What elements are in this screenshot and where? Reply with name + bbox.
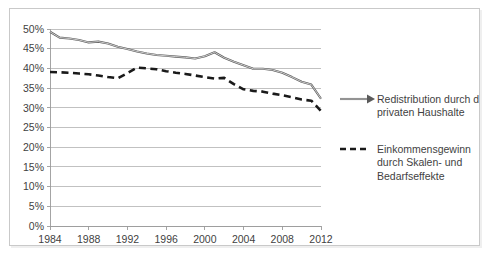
chart-figure: 50%45%40%35%30%25%20%15%10%5%0%198419881… (0, 0, 494, 261)
y-axis-tick-label: 20% (23, 141, 44, 153)
y-axis-tick-label: 5% (29, 200, 44, 212)
x-axis-tick-label: 1996 (154, 233, 178, 245)
legend-label-einkommensgewinn-line1: Einkommensgewinn (377, 143, 471, 155)
y-axis-tick-label: 45% (23, 42, 44, 54)
legend-label-redistribution-line2: privaten Haushalte (377, 106, 465, 118)
y-axis-tick-label: 35% (23, 82, 44, 94)
legend-label-einkommensgewinn-line3: Bedarfseffekte (377, 170, 445, 182)
y-axis-tick-label: 0% (29, 220, 44, 232)
y-axis-tick-label: 40% (23, 62, 44, 74)
y-axis-tick-label: 10% (23, 180, 44, 192)
x-axis-tick-label: 1984 (38, 233, 62, 245)
x-axis-tick-label: 2004 (232, 233, 256, 245)
series-line-redistribution (50, 32, 321, 99)
legend-label-einkommensgewinn-line2: durch Skalen- und (377, 156, 462, 168)
y-axis-tick-label: 50% (23, 23, 44, 35)
legend-arrow-icon (367, 95, 375, 104)
y-axis-tick-label: 30% (23, 102, 44, 114)
series-line-einkommensgewinn (50, 68, 321, 111)
x-axis-tick-label: 2008 (271, 233, 295, 245)
y-axis-tick-label: 15% (23, 161, 44, 173)
x-axis-tick-label: 2012 (309, 233, 333, 245)
y-axis-tick-label: 25% (23, 121, 44, 133)
chart-frame: 50%45%40%35%30%25%20%15%10%5%0%198419881… (9, 8, 480, 246)
x-axis-tick-label: 2000 (193, 233, 217, 245)
x-axis-tick-label: 1988 (77, 233, 101, 245)
x-axis-tick-label: 1992 (116, 233, 140, 245)
legend-label-redistribution-line1: Redistribution durch die (377, 93, 479, 105)
line-chart-canvas: 50%45%40%35%30%25%20%15%10%5%0%198419881… (10, 9, 479, 245)
